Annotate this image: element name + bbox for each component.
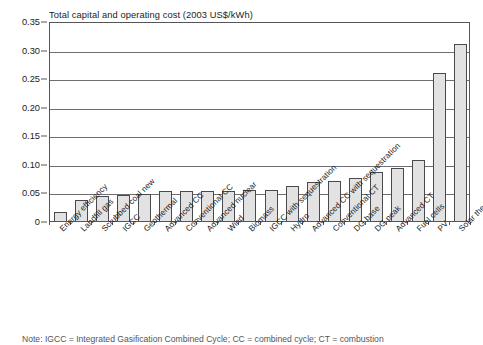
chart-figure: Total capital and operating cost (2003 U… [0, 0, 483, 345]
x-axis-labels: Energy efficiencyLandfill gasScrubbed co… [0, 0, 483, 345]
x-axis-label: PV [436, 219, 450, 233]
x-axis-label: Solar thermal [457, 192, 483, 234]
figure-note: Note: IGCC = Integrated Gasification Com… [22, 334, 384, 344]
x-axis-label: Wind [226, 214, 246, 234]
